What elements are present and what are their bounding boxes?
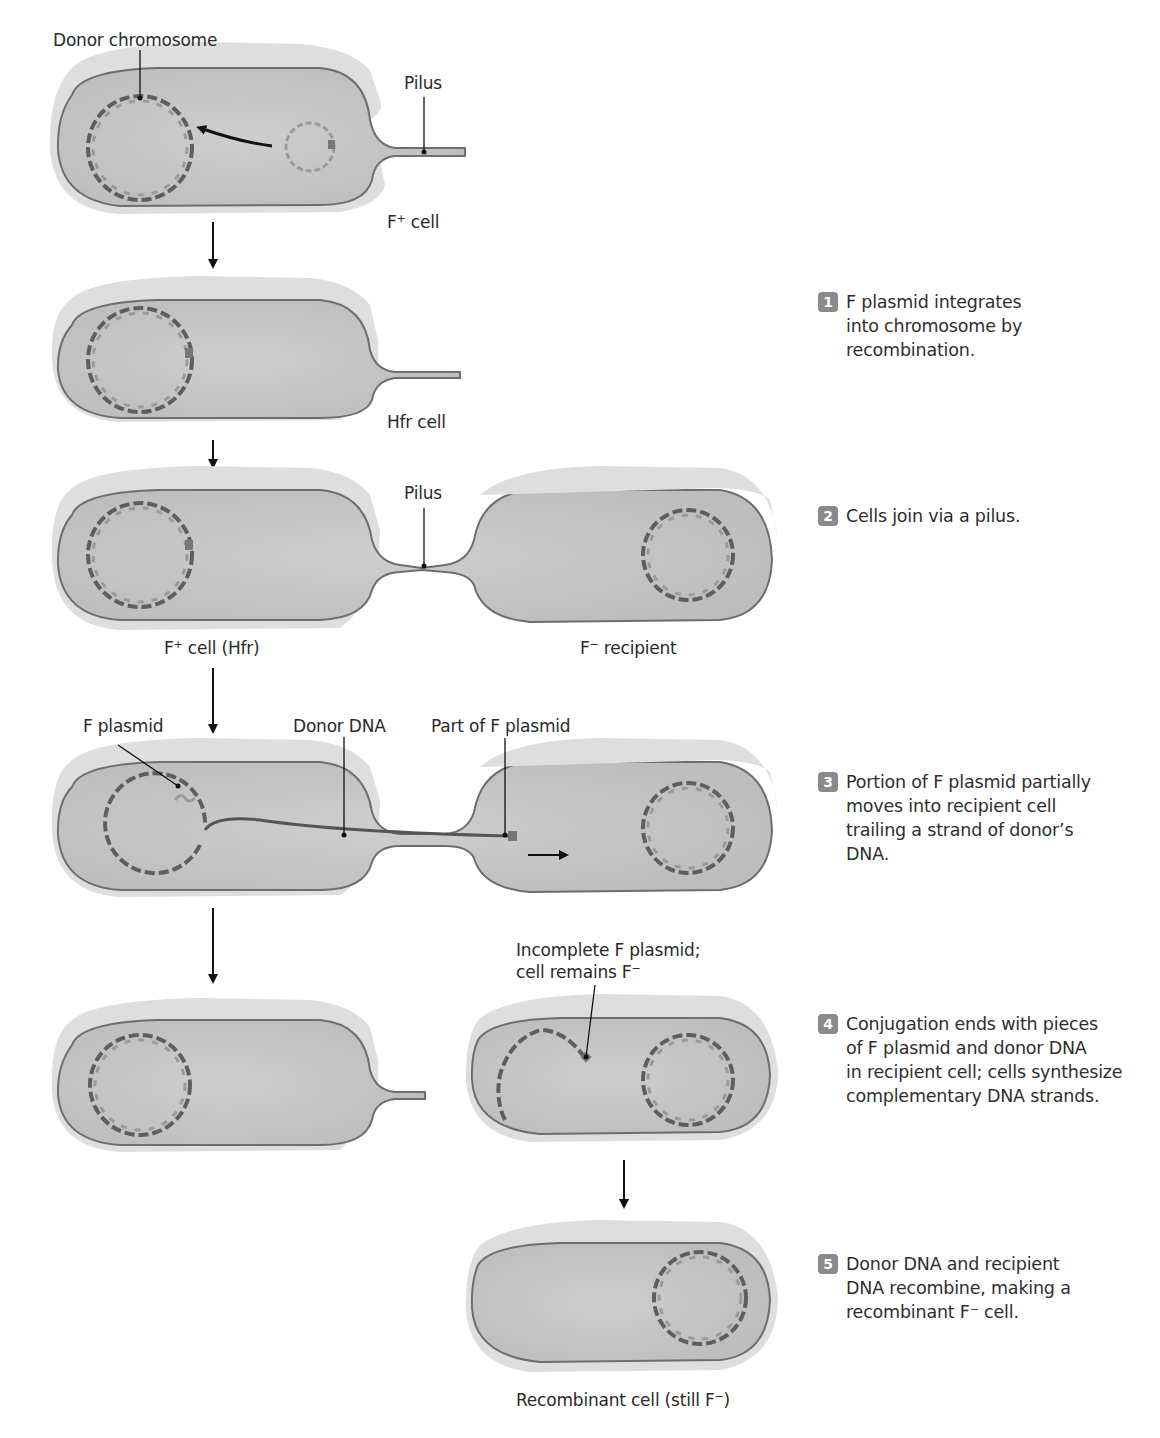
label-f-plasmid: F plasmid — [83, 716, 163, 736]
step-text: Portion of F plasmid partially moves int… — [846, 770, 1091, 866]
label-incomplete-line1: Incomplete F plasmid; — [516, 940, 700, 960]
step-text: F plasmid integrates into chromosome by … — [846, 290, 1022, 362]
hfr-cell — [52, 276, 460, 422]
label-f-plus-hfr: F+ cell (Hfr) — [164, 638, 260, 658]
step-5: 5 Donor DNA and recipient DNA recombine,… — [818, 1252, 1071, 1324]
step-number-badge: 1 — [818, 292, 838, 312]
step-text: Donor DNA and recipient DNA recombine, m… — [846, 1252, 1071, 1324]
label-hfr-cell: Hfr cell — [387, 412, 446, 432]
transfer-cells — [52, 737, 778, 897]
step-text: Cells join via a pilus. — [846, 504, 1020, 528]
step-1: 1 F plasmid integrates into chromosome b… — [818, 290, 1022, 362]
step-3: 3 Portion of F plasmid partially moves i… — [818, 770, 1091, 866]
recombinant-cell — [466, 1220, 778, 1372]
conjugation-diagram: Donor chromosome Pilus F+ cell Hfr cell … — [0, 0, 1160, 1438]
label-pilus-mid: Pilus — [404, 483, 442, 503]
separated-donor-cell — [52, 998, 425, 1152]
label-f-minus-recipient: F− recipient — [580, 638, 677, 658]
label-pilus-top: Pilus — [404, 73, 442, 93]
step-number-badge: 4 — [818, 1014, 838, 1034]
label-donor-dna: Donor DNA — [293, 716, 386, 736]
step-2: 2 Cells join via a pilus. — [818, 504, 1020, 528]
recipient-cell-after — [466, 985, 778, 1142]
step-number-badge: 5 — [818, 1254, 838, 1274]
f-plus-cell — [50, 42, 465, 214]
step-number-badge: 2 — [818, 506, 838, 526]
label-recombinant-cell: Recombinant cell (still F−) — [516, 1390, 730, 1410]
step-text: Conjugation ends with pieces of F plasmi… — [846, 1012, 1122, 1108]
label-f-plus-cell: F+ cell — [387, 212, 439, 232]
label-donor-chromosome: Donor chromosome — [53, 30, 217, 50]
label-part-of-f-plasmid: Part of F plasmid — [431, 716, 570, 736]
label-incomplete-line2: cell remains F− — [516, 962, 640, 982]
step-number-badge: 3 — [818, 772, 838, 792]
diagram-artwork — [0, 0, 1160, 1438]
step-4: 4 Conjugation ends with pieces of F plas… — [818, 1012, 1122, 1108]
